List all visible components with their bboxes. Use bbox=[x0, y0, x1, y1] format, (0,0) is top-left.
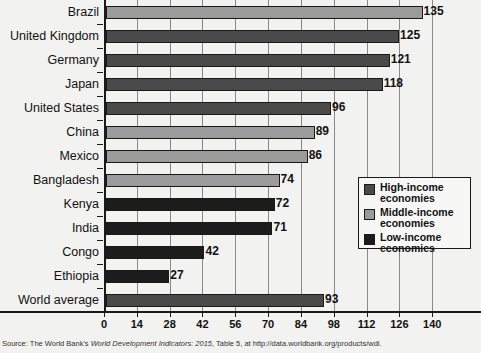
y-tick bbox=[97, 216, 103, 217]
bar-united-kingdom bbox=[106, 30, 399, 43]
y-tick bbox=[97, 192, 103, 193]
category-label-brazil: Brazil bbox=[0, 0, 99, 24]
category-label-mexico: Mexico bbox=[0, 144, 99, 168]
bar-row: Mexico86 bbox=[0, 144, 481, 168]
y-tick bbox=[97, 120, 103, 121]
x-tick-label-84: 84 bbox=[286, 318, 316, 330]
x-axis-line bbox=[0, 311, 481, 313]
y-tick bbox=[97, 264, 103, 265]
bar-germany bbox=[106, 54, 390, 67]
source-suffix: , Table 5, at http://data.worldbank.org/… bbox=[212, 339, 382, 348]
source-italic-title: World Development Indicators: 2015 bbox=[91, 339, 212, 348]
legend-label-middle-income: Middle-incomeeconomies bbox=[380, 207, 454, 229]
category-label-china: China bbox=[0, 120, 99, 144]
bar-value-world-average: 93 bbox=[325, 292, 338, 306]
x-tick-98 bbox=[334, 312, 335, 317]
bar-value-united-states: 96 bbox=[332, 100, 345, 114]
source-note: Source: The World Bank's World Developme… bbox=[2, 339, 382, 348]
legend-swatch-middle-income bbox=[364, 209, 375, 220]
legend-item-high-income: High-incomeeconomies bbox=[364, 182, 466, 204]
category-label-germany: Germany bbox=[0, 48, 99, 72]
y-tick bbox=[97, 168, 103, 169]
legend-swatch-low-income bbox=[364, 234, 375, 245]
category-label-bangladesh: Bangladesh bbox=[0, 168, 99, 192]
x-tick-126 bbox=[399, 312, 400, 317]
category-label-kenya: Kenya bbox=[0, 192, 99, 216]
bar-row: United Kingdom125 bbox=[0, 24, 481, 48]
y-tick bbox=[97, 240, 103, 241]
legend-swatch-high-income bbox=[364, 184, 375, 195]
x-tick-112 bbox=[367, 312, 368, 317]
bar-value-japan: 118 bbox=[384, 76, 403, 90]
legend-label-high-income: High-incomeeconomies bbox=[380, 182, 444, 204]
x-tick-84 bbox=[301, 312, 302, 317]
category-label-world-average: World average bbox=[0, 288, 99, 312]
bar-bangladesh bbox=[106, 174, 280, 187]
bar-value-germany: 121 bbox=[391, 52, 411, 66]
category-label-japan: Japan bbox=[0, 72, 99, 96]
x-tick-label-14: 14 bbox=[122, 318, 152, 330]
bar-ethiopia bbox=[106, 270, 169, 283]
bar-value-china: 89 bbox=[316, 124, 329, 138]
bar-row: Ethiopia27 bbox=[0, 264, 481, 288]
x-tick-label-98: 98 bbox=[319, 318, 349, 330]
bar-row: Japan118 bbox=[0, 72, 481, 96]
bar-row: China89 bbox=[0, 120, 481, 144]
y-tick bbox=[97, 72, 103, 73]
bar-row: World average93 bbox=[0, 288, 481, 312]
bar-value-kenya: 72 bbox=[276, 196, 289, 210]
category-label-united-states: United States bbox=[0, 96, 99, 120]
bar-congo bbox=[106, 246, 204, 259]
x-tick-28 bbox=[170, 312, 171, 317]
y-tick bbox=[97, 48, 103, 49]
x-tick-label-140: 140 bbox=[417, 318, 447, 330]
category-label-congo: Congo bbox=[0, 240, 99, 264]
x-tick-0 bbox=[104, 312, 105, 317]
y-tick bbox=[97, 144, 103, 145]
bar-india bbox=[106, 222, 272, 235]
bar-world-average bbox=[106, 294, 324, 307]
bar-value-mexico: 86 bbox=[309, 148, 322, 162]
bar-chart: Brazil135United Kingdom125Germany121Japa… bbox=[0, 0, 481, 353]
x-tick-label-70: 70 bbox=[253, 318, 283, 330]
bar-japan bbox=[106, 78, 383, 91]
bar-row: Brazil135 bbox=[0, 0, 481, 24]
x-tick-140 bbox=[432, 312, 433, 317]
y-tick bbox=[97, 288, 103, 289]
bar-brazil bbox=[106, 6, 423, 19]
category-label-india: India bbox=[0, 216, 99, 240]
x-tick-label-42: 42 bbox=[187, 318, 217, 330]
x-tick-42 bbox=[202, 312, 203, 317]
bar-value-ethiopia: 27 bbox=[170, 268, 183, 282]
legend-item-middle-income: Middle-incomeeconomies bbox=[364, 207, 466, 229]
chart-legend: High-incomeeconomies Middle-incomeeconom… bbox=[358, 177, 471, 249]
legend-item-low-income: Low-incomeeconomies bbox=[364, 232, 466, 254]
category-label-ethiopia: Ethiopia bbox=[0, 264, 99, 288]
x-tick-label-0: 0 bbox=[89, 318, 119, 330]
bar-kenya bbox=[106, 198, 275, 211]
y-tick bbox=[97, 24, 103, 25]
x-tick-70 bbox=[268, 312, 269, 317]
bar-united-states bbox=[106, 102, 331, 115]
bar-value-brazil: 135 bbox=[424, 4, 444, 18]
bar-value-congo: 42 bbox=[205, 244, 218, 258]
source-prefix: Source: The World Bank's bbox=[2, 339, 91, 348]
x-tick-label-56: 56 bbox=[220, 318, 250, 330]
bar-row: Germany121 bbox=[0, 48, 481, 72]
bar-value-united-kingdom: 125 bbox=[400, 28, 420, 42]
x-tick-label-126: 126 bbox=[384, 318, 414, 330]
bar-value-bangladesh: 74 bbox=[281, 172, 294, 186]
x-tick-label-112: 112 bbox=[352, 318, 382, 330]
bar-mexico bbox=[106, 150, 308, 163]
legend-label-low-income: Low-incomeeconomies bbox=[380, 232, 441, 254]
bar-row: United States96 bbox=[0, 96, 481, 120]
category-label-united-kingdom: United Kingdom bbox=[0, 24, 99, 48]
bar-china bbox=[106, 126, 315, 139]
x-tick-56 bbox=[235, 312, 236, 317]
bar-value-india: 71 bbox=[273, 220, 286, 234]
x-tick-14 bbox=[137, 312, 138, 317]
y-tick bbox=[97, 96, 103, 97]
x-tick-label-28: 28 bbox=[155, 318, 185, 330]
